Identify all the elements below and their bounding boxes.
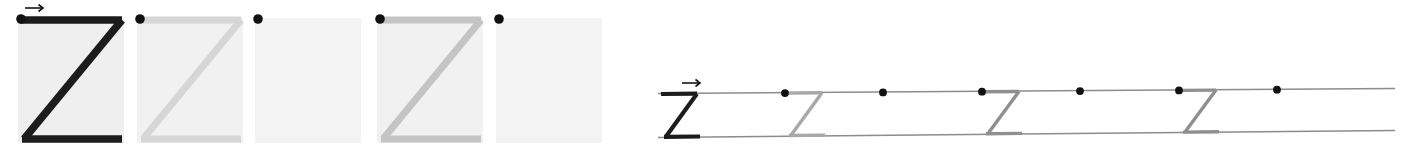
start-dot	[1175, 87, 1183, 95]
z-diagonal-stroke	[791, 93, 822, 136]
z-diagonal-stroke	[666, 94, 697, 137]
practice-box-3[interactable]	[251, 0, 376, 159]
writing-line-panel[interactable]	[640, 0, 1401, 159]
top-rule-line	[658, 89, 1395, 94]
box-background	[255, 18, 361, 143]
writing-line-letter-3	[983, 92, 1022, 134]
practice-box-1[interactable]	[10, 0, 135, 159]
handwriting-worksheet	[0, 0, 1401, 159]
box-background	[496, 18, 602, 143]
writing-line-letter-4	[1180, 90, 1219, 132]
stroke-direction-arrow-icon	[25, 5, 43, 12]
writing-line-letter-1	[661, 94, 700, 137]
writing-line-letter-2	[786, 93, 825, 136]
start-dot	[1076, 87, 1084, 95]
practice-boxes-panel	[0, 0, 640, 159]
practice-box-5[interactable]	[492, 0, 617, 159]
start-dot	[253, 14, 263, 24]
start-dot	[16, 14, 26, 24]
start-dot	[494, 14, 504, 24]
start-dot	[1273, 86, 1281, 94]
practice-box-4[interactable]	[373, 0, 498, 159]
practice-box-2[interactable]	[133, 0, 258, 159]
stroke-direction-arrow-icon	[682, 80, 700, 87]
start-dot	[135, 14, 145, 24]
z-diagonal-stroke	[1185, 90, 1216, 132]
z-diagonal-stroke	[988, 92, 1019, 134]
start-dot	[781, 89, 789, 97]
start-dot	[375, 14, 385, 24]
start-dot	[879, 89, 887, 97]
bottom-rule-line	[658, 131, 1395, 138]
start-dot	[978, 88, 986, 96]
